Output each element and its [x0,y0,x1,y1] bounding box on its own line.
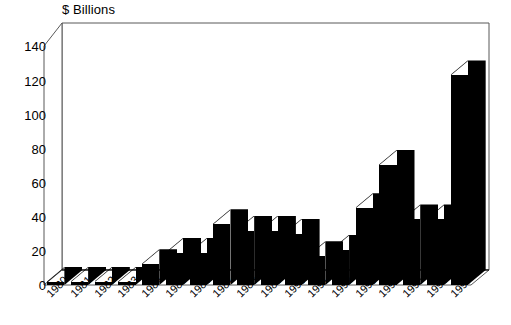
x-tick-label: 1980 [44,274,70,300]
x-tick-label: 1990 [282,274,308,300]
x-tick-label: 1995 [400,274,426,300]
x-tick-label: 1997 [448,274,474,300]
x-tick-label: 1992 [329,274,355,300]
x-tick-label: 1983 [115,274,141,300]
x-tick-label: 1993 [353,274,379,300]
x-tick-label: 1989 [258,274,284,300]
x-tick-label: 1985 [163,274,189,300]
x-tick-label: 1987 [210,274,236,300]
x-tick-label: 1984 [139,274,165,300]
x-tick-label: 1994 [376,274,402,300]
x-tick-label: 1986 [187,274,213,300]
x-tick-label: 1988 [234,274,260,300]
x-tick-label: 1996 [424,274,450,300]
x-tick-label: 1982 [92,274,118,300]
x-axis: 1980198119821983198419851986198719881989… [0,0,511,325]
x-tick-label: 1981 [68,274,94,300]
x-tick-label: 1991 [305,274,331,300]
bar-chart: $ Billions 140 120 100 80 60 40 20 0 198… [0,0,511,325]
